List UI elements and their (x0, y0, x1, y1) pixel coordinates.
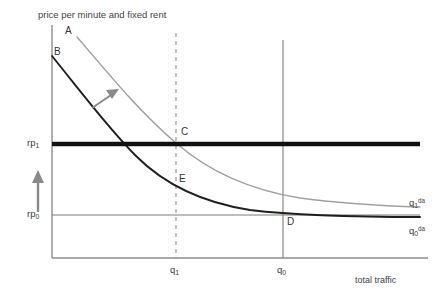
chart-figure: price per minute and fixed rent total tr… (0, 0, 443, 301)
price-up-arrow-icon (32, 170, 44, 212)
rp0-subscript: 0 (35, 213, 39, 220)
curve-a-end-label: q1da (409, 198, 425, 210)
shift-arrow-icon (92, 89, 119, 108)
curve-b-end-label: q0da (409, 226, 425, 238)
point-label-a: A (65, 26, 72, 36)
q0da-superscript: da (418, 225, 425, 232)
chart-title: price per minute and fixed rent (38, 10, 166, 20)
curve-a (77, 37, 420, 207)
curve-b (52, 56, 420, 217)
q1-subscript: 1 (175, 269, 179, 276)
point-label-d: D (287, 217, 294, 227)
point-label-c: C (181, 127, 188, 137)
x-tick-label-q0: q0 (277, 265, 286, 277)
x-axis-label: total traffic (355, 276, 396, 285)
q0-subscript: 0 (282, 269, 286, 276)
chart-plot-area (0, 0, 443, 301)
y-tick-label-rp1: rp1 (27, 138, 39, 150)
point-label-e: E (179, 174, 186, 184)
point-label-b: B (54, 47, 61, 57)
y-tick-label-rp0: rp0 (27, 209, 39, 221)
rp1-subscript: 1 (35, 142, 39, 149)
x-tick-label-q1: q1 (170, 265, 179, 277)
q1da-superscript: da (418, 197, 425, 204)
